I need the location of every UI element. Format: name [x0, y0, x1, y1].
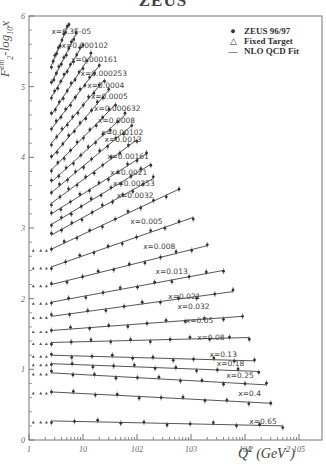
series-label: x=0.0004 [87, 81, 124, 90]
data-point [59, 196, 62, 199]
data-point [86, 309, 89, 312]
data-point [58, 101, 61, 104]
data-point [204, 399, 207, 402]
data-point [77, 112, 80, 115]
series-label: x=0.00253 [113, 179, 155, 188]
data-point [178, 188, 181, 191]
y-tick-label: 5 [21, 83, 25, 92]
data-point [119, 286, 122, 289]
data-point [188, 275, 191, 278]
data-point [265, 382, 268, 385]
data-point [152, 199, 155, 202]
x-tick-label: 102 [131, 445, 143, 454]
data-point [69, 326, 72, 329]
data-point [70, 222, 73, 225]
data-point [50, 329, 53, 332]
data-point [69, 149, 72, 152]
series-label: x=0.000161 [71, 55, 118, 64]
data-point [216, 368, 219, 371]
fixed-target-point [39, 355, 42, 358]
data-point [55, 120, 58, 123]
data-point [195, 369, 198, 372]
y-tick-label: 3 [20, 224, 25, 233]
x-tick-label: 1 [27, 445, 31, 454]
data-point [98, 182, 101, 185]
data-point [144, 262, 147, 265]
data-point [50, 313, 53, 316]
series-label: x=0.05 [186, 316, 214, 325]
data-point [172, 359, 175, 362]
data-point [84, 84, 87, 87]
series-label: x=0.005 [130, 217, 162, 226]
data-point [91, 211, 94, 214]
series-label: x=0.18 [217, 359, 245, 368]
data-point [97, 270, 100, 273]
data-point [66, 90, 69, 93]
data-point [195, 297, 198, 300]
data-point [79, 193, 82, 196]
data-point [67, 297, 70, 300]
data-point [228, 336, 231, 339]
series-label: x=0.08 [197, 333, 225, 342]
data-point [108, 108, 111, 111]
data-point [60, 216, 63, 219]
data-point [107, 324, 110, 327]
data-point [174, 366, 177, 369]
data-point [154, 367, 157, 370]
data-point [82, 44, 85, 47]
data-point [170, 280, 173, 283]
data-point [146, 322, 149, 325]
data-point [65, 54, 68, 57]
data-point [133, 364, 136, 367]
series-label: x=0.0005 [91, 92, 128, 101]
data-point [222, 318, 225, 321]
data-point [232, 289, 235, 292]
series-label: x=0.0032 [117, 191, 154, 200]
data-point [50, 170, 53, 173]
data-point [55, 72, 58, 75]
fixed-target-point [32, 316, 35, 319]
data-point [66, 124, 69, 127]
data-point [136, 286, 139, 289]
fixed-target-point [32, 364, 35, 367]
fixed-target-point [32, 342, 35, 345]
data-point [98, 149, 101, 152]
x-tick-label: 103 [185, 445, 197, 454]
fixed-target-point [39, 302, 42, 305]
data-point [152, 356, 155, 359]
data-point [84, 296, 87, 299]
data-point [116, 393, 119, 396]
y-tick-label: 6 [21, 12, 25, 21]
data-point [177, 297, 180, 300]
data-point [90, 109, 93, 112]
data-point [74, 78, 77, 81]
data-point [60, 208, 63, 211]
data-point [88, 327, 91, 330]
data-point [107, 88, 110, 91]
series-label: x=0.4 [238, 389, 261, 398]
data-point [72, 390, 75, 393]
data-point [201, 379, 204, 382]
data-point [166, 424, 169, 427]
data-point [76, 141, 79, 144]
fixed-target-point [39, 392, 42, 395]
fixed-target-point [32, 267, 35, 270]
series-label: x=0.13 [209, 350, 237, 359]
data-point [165, 319, 168, 322]
data-point [74, 96, 77, 99]
data-point [53, 90, 56, 93]
series-label: x=0.008 [143, 242, 175, 251]
series-label: x=0.000632 [94, 104, 141, 113]
data-point [56, 161, 59, 164]
data-point [145, 152, 148, 155]
data-point [50, 66, 53, 69]
fixed-target-point [32, 355, 35, 358]
data-point [247, 402, 250, 405]
data-point [107, 178, 110, 181]
data-point [192, 358, 195, 361]
data-point [127, 210, 130, 213]
data-point [102, 96, 105, 99]
data-point [205, 270, 208, 273]
data-point [115, 377, 118, 380]
fixed-target-point [45, 267, 48, 270]
